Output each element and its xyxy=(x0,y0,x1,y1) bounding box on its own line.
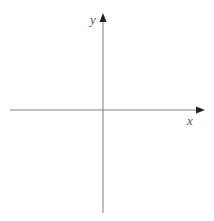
x-axis-label: x xyxy=(187,114,193,127)
axes-diagram xyxy=(0,0,214,221)
y-axis-label: y xyxy=(90,13,96,26)
y-axis-arrowhead-icon xyxy=(100,13,107,22)
x-axis-arrowhead-icon xyxy=(196,107,205,114)
